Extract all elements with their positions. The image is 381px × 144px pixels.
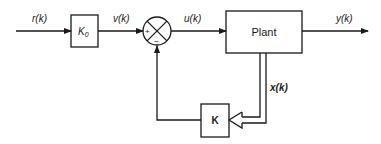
feedback-gain-block: K xyxy=(201,104,229,137)
block-diagram: r(k) K0 v(k) + − u(k) Plant y(k) x(k) xyxy=(0,0,381,144)
state-hollow-arrowhead xyxy=(229,112,242,128)
output-signal: y(k) xyxy=(302,13,368,31)
scaled-reference-signal: v(k) xyxy=(98,13,143,31)
scaled-reference-label: v(k) xyxy=(113,13,130,24)
minus-sign: − xyxy=(154,37,159,46)
state-label: x(k) xyxy=(269,82,288,93)
state-signal: x(k) xyxy=(229,53,288,128)
feedback-path xyxy=(157,46,201,120)
summing-junction: + − xyxy=(143,17,171,46)
control-signal: u(k) xyxy=(171,13,226,31)
prefilter-label: K0 xyxy=(78,26,89,38)
output-label: y(k) xyxy=(335,13,353,24)
state-line-inner xyxy=(242,53,260,117)
plant-block: Plant xyxy=(226,11,302,53)
state-line-outer xyxy=(242,53,266,123)
reference-label: r(k) xyxy=(32,13,47,24)
reference-signal: r(k) xyxy=(16,13,71,31)
feedback-arrow xyxy=(157,46,201,120)
prefilter-block: K0 xyxy=(71,15,98,47)
plant-label: Plant xyxy=(251,26,276,38)
feedback-gain-label: K xyxy=(211,115,219,126)
control-label: u(k) xyxy=(184,13,201,24)
plus-sign: + xyxy=(145,27,150,36)
